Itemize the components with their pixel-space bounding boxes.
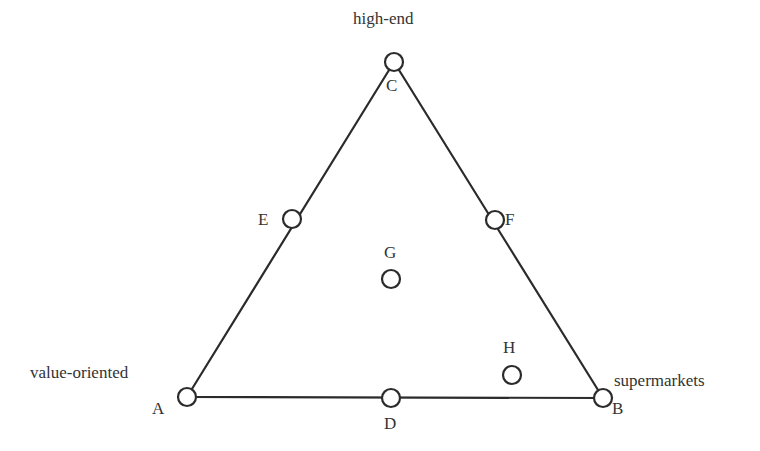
point-label-d: D xyxy=(384,414,396,433)
point-f-circle-icon xyxy=(486,211,504,229)
point-label-e: E xyxy=(258,210,268,229)
point-label-a: A xyxy=(152,399,165,418)
vertex-label-value-oriented: value-oriented xyxy=(30,363,129,382)
point-h-circle-icon xyxy=(503,366,521,384)
edge-a-c xyxy=(187,62,394,397)
point-c-circle-icon xyxy=(385,53,403,71)
vertex-label-supermarkets: supermarkets xyxy=(614,371,705,390)
point-b-circle-icon xyxy=(594,389,612,407)
edge-c-b xyxy=(394,62,603,398)
point-label-g: G xyxy=(384,243,396,262)
point-label-h: H xyxy=(503,338,515,357)
point-e-circle-icon xyxy=(283,210,301,228)
ternary-diagram: ABCDEFGH high-end value-oriented superma… xyxy=(0,0,760,451)
point-label-c: C xyxy=(386,76,397,95)
point-d-circle-icon xyxy=(382,389,400,407)
point-a-circle-icon xyxy=(178,388,196,406)
point-g-circle-icon xyxy=(382,270,400,288)
point-label-f: F xyxy=(505,210,514,229)
point-labels: ABCDEFGH xyxy=(152,76,623,433)
point-label-b: B xyxy=(612,399,623,418)
triangle-nodes xyxy=(178,53,612,407)
vertex-label-high-end: high-end xyxy=(353,9,414,28)
triangle-edges xyxy=(187,62,603,398)
